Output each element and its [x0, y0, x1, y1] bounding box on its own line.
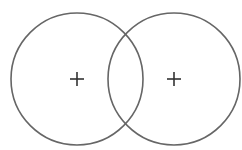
left-circle-group [11, 13, 143, 145]
right-center-plus-icon [167, 72, 181, 86]
left-center-plus-icon [70, 72, 84, 86]
right-circle-group [108, 13, 240, 145]
venn-diagram [0, 0, 242, 150]
